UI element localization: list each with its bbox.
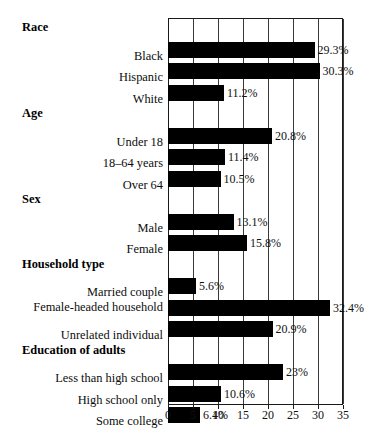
bar-value-white: 11.2%: [227, 85, 258, 101]
row-label-female: Female: [0, 242, 163, 256]
row-label-under-18: Under 18: [0, 135, 163, 149]
bar-unrelated-individual: [168, 321, 273, 337]
row-label-hispanic: Hispanic: [0, 70, 163, 84]
row-label-married-couple: Married couple: [0, 285, 163, 299]
row-label-some-college: Some college: [0, 414, 163, 428]
bar-value-hispanic: 30.3%: [323, 63, 354, 79]
group-header-household-type: Household type: [22, 257, 104, 271]
bar-value-less-than-high-school: 23%: [286, 364, 308, 380]
bar-under-18: [168, 128, 272, 144]
row-label-18-64-years: 18–64 years: [0, 156, 163, 170]
row-label-female-headed-household: Female-headed household: [0, 301, 163, 314]
bar-over-64: [168, 171, 221, 187]
row-label-less-than-high-school: Less than high school: [0, 371, 163, 385]
group-header-race: Race: [22, 20, 48, 34]
bar-18-64-years: [168, 149, 225, 165]
bar-value-female-headed-household: 32.4%: [333, 300, 364, 316]
axis-tick-label-35: 35: [328, 408, 358, 423]
bar-married-couple: [168, 278, 196, 294]
bar-hispanic: [168, 63, 320, 79]
row-label-male: Male: [0, 221, 163, 235]
bar-white: [168, 85, 224, 101]
bar-high-school-only: [168, 386, 221, 402]
group-header-education-of-adults: Education of adults: [22, 343, 125, 357]
bar-value-female: 15.8%: [250, 235, 281, 251]
row-label-unrelated-individual: Unrelated individual: [0, 328, 163, 342]
group-header-age: Age: [22, 106, 43, 120]
bar-value-over-64: 10.5%: [224, 171, 255, 187]
bar-value-male: 13.1%: [237, 214, 268, 230]
poverty-rate-bar-chart: RaceBlack29.3%Hispanic30.3%White11.2%Age…: [0, 0, 375, 443]
bar-value-black: 29.3%: [318, 42, 349, 58]
bar-black: [168, 42, 315, 58]
bar-value-married-couple: 5.6%: [199, 278, 224, 294]
row-label-white: White: [0, 92, 163, 106]
bar-female-headed-household: [168, 300, 330, 316]
bar-male: [168, 214, 234, 230]
row-label-over-64: Over 64: [0, 178, 163, 192]
bar-less-than-high-school: [168, 364, 283, 380]
bar-value-18-64-years: 11.4%: [228, 149, 259, 165]
group-header-sex: Sex: [22, 192, 41, 206]
row-label-black: Black: [0, 49, 163, 63]
bar-female: [168, 235, 247, 251]
bar-value-high-school-only: 10.6%: [224, 386, 255, 402]
row-label-high-school-only: High school only: [0, 393, 163, 407]
bar-value-unrelated-individual: 20.9%: [276, 321, 307, 337]
bar-value-under-18: 20.8%: [275, 128, 306, 144]
